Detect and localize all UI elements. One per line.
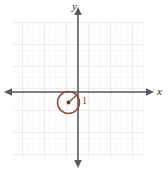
y-axis-label: y: [72, 1, 77, 12]
figure-canvas: y x 1: [0, 0, 168, 173]
circle-center-point: [67, 101, 71, 105]
x-axis-arrow-left: [4, 88, 12, 96]
x-axis-label: x: [157, 86, 162, 97]
x-axis-arrow-right: [146, 88, 154, 96]
y-axis-arrow-down: [74, 160, 82, 168]
radius-length-label: 1: [82, 96, 87, 106]
coordinate-plane-svg: [0, 0, 168, 173]
